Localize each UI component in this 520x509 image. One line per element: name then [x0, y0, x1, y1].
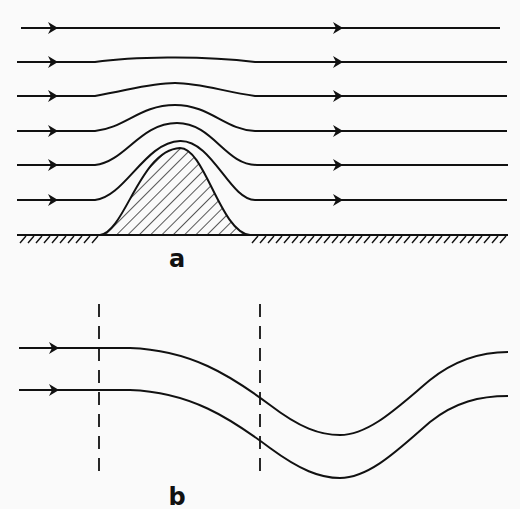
diagram — [0, 0, 520, 509]
arrow-icons-left — [48, 22, 58, 206]
panel-a — [17, 22, 508, 240]
panel-b-label: b — [168, 483, 185, 509]
arrow-icons-right — [333, 22, 343, 206]
streamline-5 — [17, 123, 508, 165]
arrow-icons-b — [49, 342, 59, 396]
streamline-2 — [17, 57, 507, 62]
streamline-b-1 — [19, 348, 508, 435]
streamline-4 — [17, 105, 507, 131]
ground-hatching — [20, 236, 506, 243]
panel-b — [19, 304, 508, 478]
streamline-6 — [17, 141, 507, 200]
streamline-b-2 — [19, 390, 508, 478]
panel-a-label: a — [169, 245, 185, 273]
streamline-3 — [17, 83, 507, 96]
